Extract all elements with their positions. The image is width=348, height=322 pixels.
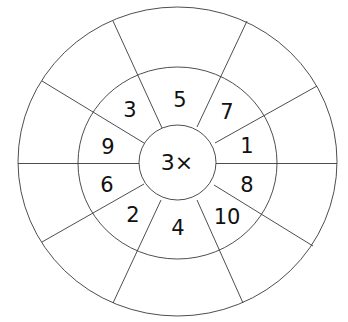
inner-number-left-lower: 6 [100, 173, 113, 197]
inner-number-right-lower: 8 [240, 173, 253, 197]
center-label: 3× [161, 150, 193, 175]
spoke-top-left [113, 21, 162, 128]
multiplication-wheel: 3× 5 7 1 8 10 4 2 6 9 3 [0, 0, 348, 322]
inner-number-top-left: 3 [123, 98, 136, 122]
inner-number-right-upper: 1 [240, 134, 253, 158]
inner-number-bottom: 4 [171, 216, 184, 240]
inner-number-bottom-left: 2 [126, 203, 139, 227]
inner-number-top-right: 7 [220, 100, 233, 124]
inner-number-left-upper: 9 [101, 135, 114, 159]
inner-number-bottom-right: 10 [214, 205, 241, 229]
inner-number-top: 5 [173, 88, 186, 112]
